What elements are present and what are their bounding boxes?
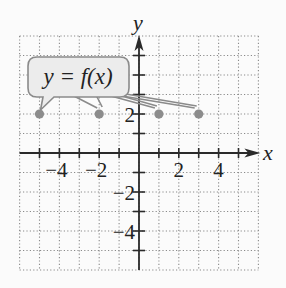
x-tick-label: 2 — [174, 158, 185, 182]
x-tick-label: −2 — [85, 158, 107, 182]
data-point — [35, 109, 44, 118]
callout-text: y = f(x) — [41, 64, 112, 89]
x-axis-label: x — [262, 140, 273, 165]
data-point — [194, 109, 203, 118]
data-point — [154, 109, 163, 118]
y-tick-label: −4 — [113, 220, 136, 244]
y-tick-label: −2 — [113, 181, 135, 205]
x-tick-label: −4 — [45, 158, 68, 182]
y-tick-label: 2 — [125, 103, 136, 127]
data-point — [95, 109, 104, 118]
x-tick-label: 4 — [213, 158, 224, 182]
function-graph: −4−2242−2−4 x y y = f(x) — [0, 0, 286, 288]
y-axis-label: y — [131, 10, 143, 35]
tick-labels: −4−2242−2−4 — [45, 103, 224, 244]
